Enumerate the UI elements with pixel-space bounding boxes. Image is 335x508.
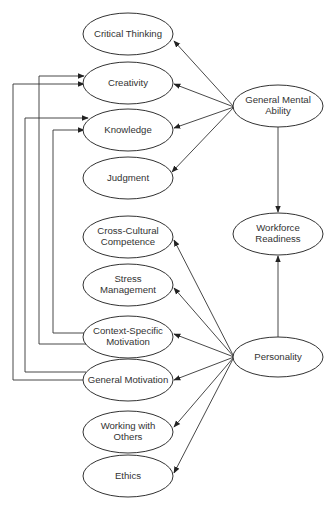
node-cross-cultural: Cross-CulturalCompetence — [83, 216, 173, 258]
node-label: General Motivation — [88, 374, 169, 385]
node-label: Creativity — [108, 77, 148, 88]
nodes-layer: Critical ThinkingCreativityKnowledgeJudg… — [83, 13, 323, 497]
node-label: Knowledge — [104, 124, 151, 135]
node-label: Critical Thinking — [94, 28, 162, 39]
node-label: Others — [114, 431, 143, 442]
node-general-mental-ability: General MentalAbility — [233, 85, 323, 127]
edge-context-specific-motivation-to-knowledge — [53, 130, 84, 333]
node-label: Cross-Cultural — [97, 225, 158, 236]
node-workforce-readiness: WorkforceReadiness — [233, 213, 323, 255]
edge-general-motivation-to-knowledge — [25, 118, 88, 372]
edge-personality-to-context-specific-motivation — [174, 334, 234, 357]
edge-general-motivation-to-creativity — [13, 84, 84, 380]
node-personality: Personality — [233, 337, 323, 377]
edge-personality-to-general-motivation — [174, 357, 234, 380]
node-working-with-others: Working withOthers — [83, 411, 173, 453]
edge-general-mental-ability-to-judgment — [172, 107, 234, 172]
node-label: Ethics — [115, 470, 141, 481]
node-creativity: Creativity — [83, 62, 173, 104]
node-label: Context-Specific — [93, 325, 163, 336]
node-label: Management — [100, 284, 156, 295]
node-label: Personality — [254, 351, 302, 362]
node-label: Workforce — [256, 222, 300, 233]
node-stress-management: StressManagement — [83, 264, 173, 306]
node-knowledge: Knowledge — [83, 109, 173, 151]
edge-context-specific-motivation-to-creativity — [39, 76, 86, 344]
node-judgment: Judgment — [83, 157, 173, 199]
edge-personality-to-ethics — [174, 357, 234, 473]
node-context-specific-motivation: Context-SpecificMotivation — [83, 316, 173, 358]
node-general-motivation: General Motivation — [83, 359, 173, 401]
node-label: Competence — [101, 236, 155, 247]
node-label: Stress — [114, 273, 141, 284]
node-label: General Mental — [245, 94, 311, 105]
node-label: Readiness — [255, 233, 301, 244]
edge-general-mental-ability-to-knowledge — [174, 107, 234, 128]
edge-general-mental-ability-to-critical-thinking — [174, 41, 234, 107]
edge-personality-to-working-with-others — [174, 357, 234, 427]
node-label: Judgment — [107, 172, 149, 183]
node-label: Working with — [101, 420, 156, 431]
node-label: Motivation — [106, 336, 150, 347]
workforce-readiness-diagram: Critical ThinkingCreativityKnowledgeJudg… — [0, 0, 335, 508]
node-ethics: Ethics — [83, 455, 173, 497]
node-label: Ability — [265, 105, 291, 116]
node-critical-thinking: Critical Thinking — [83, 13, 173, 55]
edge-general-mental-ability-to-creativity — [174, 84, 234, 107]
